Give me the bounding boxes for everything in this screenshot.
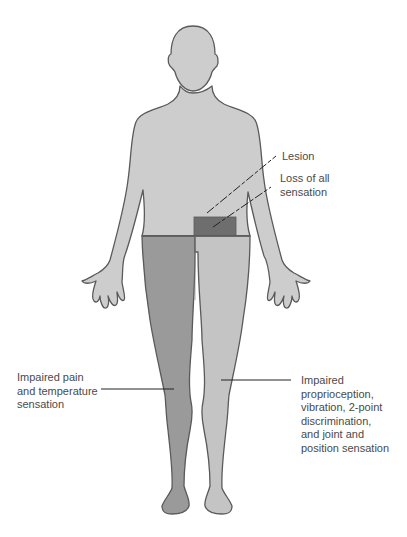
proprioception-line-3: vibration, 2-point (301, 401, 389, 415)
lesion-label: Lesion (282, 150, 314, 164)
proprioception-line-6: position sensation (301, 442, 389, 456)
torso-and-arms (82, 86, 310, 308)
body-outline (82, 26, 310, 308)
proprioception-line-2: proprioception, (301, 388, 389, 402)
pain-temperature-line-3: sensation (17, 398, 98, 412)
proprioception-line-1: Impaired (301, 374, 389, 388)
proprioception-line-4: discrimination, (301, 415, 389, 429)
loss-of-sensation-line-2: sensation (280, 186, 330, 200)
leg-right-proprioception (195, 236, 250, 514)
pain-temperature-label: Impaired pain and temperature sensation (17, 371, 98, 412)
lesion-region (194, 217, 236, 236)
proprioception-label: Impaired proprioception, vibration, 2-po… (301, 374, 389, 455)
head (168, 26, 218, 91)
loss-of-sensation-line-1: Loss of all (280, 172, 330, 186)
loss-of-sensation-label: Loss of all sensation (280, 172, 330, 199)
body-diagram (0, 0, 407, 537)
proprioception-line-5: and joint and (301, 428, 389, 442)
lesion-label-text: Lesion (282, 150, 314, 164)
pain-temperature-line-2: and temperature (17, 385, 98, 399)
pain-temperature-line-1: Impaired pain (17, 371, 98, 385)
leg-left-pain-temperature (142, 236, 195, 514)
